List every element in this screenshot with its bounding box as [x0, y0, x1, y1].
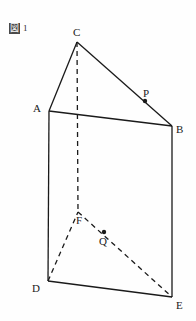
point-P-marker [143, 99, 147, 103]
vertex-label-A: A [33, 103, 41, 114]
vertex-label-E: E [176, 300, 183, 311]
vertex-label-D: D [32, 283, 40, 294]
vertex-label-B: B [176, 124, 183, 135]
point-label-Q: Q [99, 236, 107, 247]
edge-CB [77, 42, 172, 126]
point-Q-marker [102, 230, 106, 234]
edge-CA [49, 42, 77, 111]
edge-DE [48, 281, 172, 297]
edge-AD [48, 111, 49, 281]
figure-container: 図 1 A B C D E F P Q [0, 0, 196, 321]
edge-CF-hidden [77, 42, 78, 212]
edge-AB [49, 111, 172, 126]
edge-FE-hidden [78, 212, 172, 297]
vertex-label-F: F [76, 215, 82, 226]
point-label-P: P [143, 88, 149, 99]
edge-DF-hidden [48, 212, 78, 281]
vertex-label-C: C [73, 27, 80, 38]
prism-diagram [0, 0, 196, 321]
